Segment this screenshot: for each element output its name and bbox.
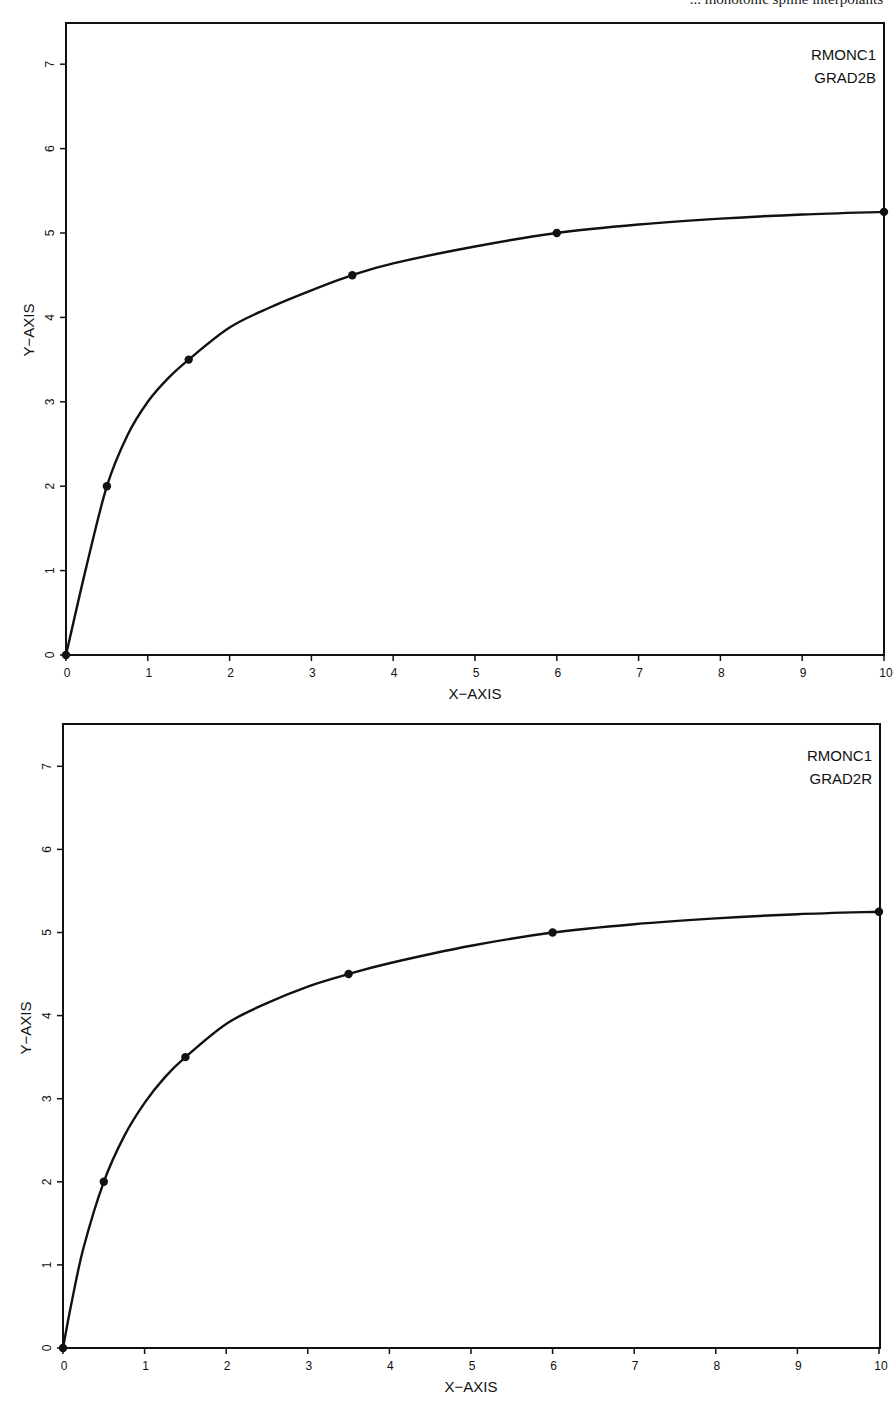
x-tick-label: 0 [64,666,71,680]
interpolant-curve [66,212,884,655]
x-tick-label: 2 [224,1359,231,1373]
y-tick-label: 5 [43,229,57,236]
data-point [59,1344,67,1352]
x-tick-label: 5 [473,666,480,680]
chart-top: 01234567891001234567X−AXISY−AXISRMONC1GR… [0,0,895,700]
x-tick-label: 8 [718,666,725,680]
series-label: RMONC1 [807,747,872,764]
x-tick-label: 1 [145,666,152,680]
data-point [185,355,193,363]
y-tick-label: 4 [40,1012,54,1019]
x-tick-label: 0 [61,1359,68,1373]
y-tick-label: 5 [40,929,54,936]
data-point [103,482,111,490]
x-tick-label: 3 [305,1359,312,1373]
x-tick-label: 5 [469,1359,476,1373]
data-point [348,271,356,279]
x-tick-label: 7 [632,1359,639,1373]
y-axis-title: Y−AXIS [17,1002,34,1055]
data-point [875,908,883,916]
y-tick-label: 1 [43,567,57,574]
x-tick-label: 4 [391,666,398,680]
data-point [553,229,561,237]
data-point [62,651,70,659]
data-point [548,928,556,936]
y-tick-label: 1 [40,1261,54,1268]
x-tick-label: 4 [387,1359,394,1373]
x-tick-label: 8 [713,1359,720,1373]
series-label: RMONC1 [811,46,876,63]
y-tick-label: 4 [43,314,57,321]
data-point [344,970,352,978]
series-label: GRAD2B [814,69,876,86]
y-tick-label: 6 [40,846,54,853]
data-point [880,208,888,216]
x-tick-label: 7 [636,666,643,680]
x-tick-label: 9 [795,1359,802,1373]
x-tick-label: 2 [227,666,234,680]
data-point [181,1053,189,1061]
series-label: GRAD2R [809,770,872,787]
x-tick-label: 6 [554,666,561,680]
y-tick-label: 0 [40,1344,54,1351]
y-tick-label: 7 [40,763,54,770]
plot-frame [63,724,880,1348]
x-tick-label: 6 [550,1359,557,1373]
x-axis-title: X−AXIS [445,1378,498,1395]
x-tick-label: 9 [800,666,807,680]
y-tick-label: 3 [43,398,57,405]
y-tick-label: 2 [40,1178,54,1185]
chart-bottom: 01234567891001234567X−AXISY−AXISRMONC1GR… [0,700,895,1401]
y-tick-label: 3 [40,1095,54,1102]
x-tick-label: 3 [309,666,316,680]
y-tick-label: 6 [43,145,57,152]
y-tick-label: 7 [43,61,57,68]
x-tick-label: 10 [879,666,893,680]
interpolant-curve [63,912,879,1348]
y-tick-label: 0 [43,651,57,658]
plot-frame [66,23,884,655]
y-tick-label: 2 [43,483,57,490]
x-tick-label: 1 [142,1359,149,1373]
data-point [100,1178,108,1186]
y-axis-title: Y−AXIS [20,304,37,357]
x-tick-label: 10 [874,1359,888,1373]
